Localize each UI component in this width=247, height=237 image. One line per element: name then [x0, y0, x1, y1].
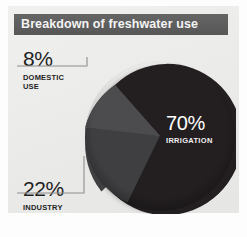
label-irrigation: 70% IRRIGATION	[166, 113, 213, 145]
figure-root: Breakdown of freshwater use	[0, 0, 247, 237]
callout-domestic-use: 8% DOMESTIC USE	[23, 48, 64, 91]
callout-industry-percent: 22%	[23, 178, 64, 199]
label-irrigation-category: IRRIGATION	[166, 136, 213, 145]
chart-panel: Breakdown of freshwater use	[8, 6, 239, 213]
figure-caption	[10, 219, 238, 231]
callout-industry: 22% INDUSTRY	[23, 178, 64, 212]
callout-industry-label: INDUSTRY	[23, 203, 64, 212]
label-irrigation-percent: 70%	[166, 113, 213, 133]
chart-title-band: Breakdown of freshwater use	[14, 14, 228, 35]
chart-title: Breakdown of freshwater use	[21, 17, 198, 31]
callout-domestic-label: DOMESTIC USE	[23, 73, 64, 91]
callout-domestic-percent: 8%	[23, 48, 64, 69]
